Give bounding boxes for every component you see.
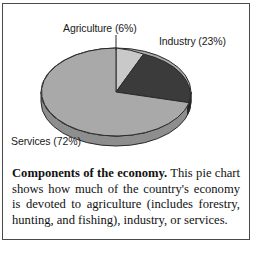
pie-label-industry: Industry (23%)	[159, 35, 226, 47]
figure-caption: Components of the economy. This pie char…	[12, 166, 240, 228]
pie-label-services: Services (72%)	[11, 135, 81, 147]
pie-chart: Agriculture (6%) Industry (23%) Services…	[3, 4, 249, 156]
pie-label-agriculture: Agriculture (6%)	[63, 22, 137, 34]
caption-lead-in: Components of the economy.	[12, 166, 167, 180]
figure-frame: Agriculture (6%) Industry (23%) Services…	[2, 3, 250, 240]
